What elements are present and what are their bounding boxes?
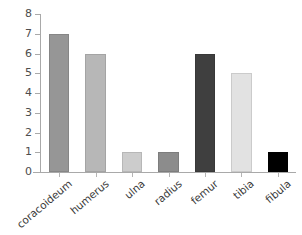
x-axis-label-text: tibia [232,178,256,201]
bar-tibia [231,73,251,172]
x-axis-label-text: ulna [123,178,147,201]
bar-chart: 012345678 coracoideumhumerusulnaradiusfe… [0,0,302,235]
bar-humerus [85,54,105,173]
bar-femur [195,54,215,173]
y-tick-0 [35,172,41,173]
y-tick-label-1: 1 [12,146,32,157]
y-tick-label-4: 4 [12,87,32,98]
x-axis-label-text: radius [152,178,184,207]
y-tick-label-6: 6 [12,48,32,59]
y-tick-label-5: 5 [12,67,32,78]
x-axis-label-text: femur [189,178,220,206]
bar-fibula [268,152,288,172]
x-tick-femur [205,173,206,177]
bar-radius [158,152,178,172]
x-axis-line [33,172,296,173]
x-tick-radius [169,173,170,177]
x-axis-label-coracoideum: coracoideum [0,178,74,235]
y-tick-label-3: 3 [12,107,32,118]
bars-group [41,14,296,172]
x-tick-ulna [132,173,133,177]
bar-coracoideum [49,34,69,172]
x-axis-label-text: fibula [263,178,292,205]
x-tick-humerus [96,173,97,177]
x-tick-tibia [241,173,242,177]
y-tick-label-2: 2 [12,127,32,138]
y-tick-label-8: 8 [12,8,32,19]
y-tick-label-0: 0 [12,166,32,177]
bar-ulna [122,152,142,172]
x-tick-fibula [278,173,279,177]
y-tick-label-7: 7 [12,28,32,39]
x-tick-coracoideum [59,173,60,177]
